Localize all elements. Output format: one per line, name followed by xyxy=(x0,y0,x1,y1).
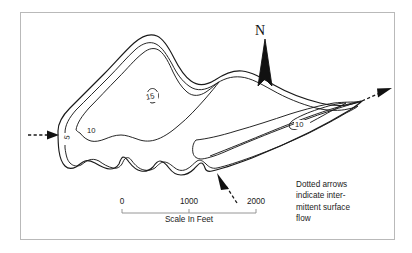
lake-bathymetry-figure: N 5 10 15 10 0 1000 2000 Scale In Feet D… xyxy=(0,0,412,253)
scale-bar-caption: Scale In Feet xyxy=(122,215,256,224)
scale-tick-label-1000: 1000 xyxy=(174,197,204,206)
scale-tick-label-2000: 2000 xyxy=(241,197,271,206)
flow-arrow-outflow-east-head xyxy=(377,88,392,98)
north-arrow-label: N xyxy=(255,23,265,39)
north-arrow xyxy=(258,39,272,86)
contour-line-east-taper xyxy=(210,101,361,156)
scale-bar xyxy=(122,209,256,213)
legend-line-1: Dotted arrows xyxy=(296,179,391,190)
contour-label-10ft-east: 10 xyxy=(295,120,303,129)
contour-label-15ft: 15 xyxy=(145,91,155,102)
scale-tick-label-0: 0 xyxy=(107,197,137,206)
flow-arrow-inflow-south-head xyxy=(217,173,229,190)
legend-text-block: Dotted arrows indicate inter- mittent su… xyxy=(296,179,391,225)
legend-line-2: indicate inter- xyxy=(296,190,391,201)
flow-arrow-inflow-south xyxy=(217,173,237,203)
contour-line-5ft xyxy=(65,43,358,171)
contour-label-10ft-west: 10 xyxy=(87,126,95,135)
flow-arrow-inflow-west xyxy=(28,131,59,140)
flow-arrow-inflow-west-head xyxy=(47,131,59,140)
lake-shoreline xyxy=(58,35,362,175)
legend-line-4: flow xyxy=(296,213,391,224)
legend-line-3: mittent surface xyxy=(296,202,391,213)
flow-arrow-outflow-east-shaft xyxy=(362,93,380,101)
flow-arrow-outflow-east xyxy=(362,88,392,101)
